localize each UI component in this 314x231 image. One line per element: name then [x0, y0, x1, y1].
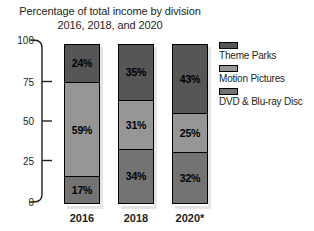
bar-2018-segment-theme-parks: 35% [118, 44, 154, 101]
y-tick-label-25: 25 [6, 155, 34, 166]
bar-2020: 43% 25% 32% [172, 44, 208, 206]
bar-2020-label-theme-parks: 43% [180, 73, 200, 85]
bar-2018-segment-motion-pictures: 31% [118, 100, 154, 150]
y-tick-label-0: 0 [6, 197, 34, 208]
bar-2016-label-theme-parks: 24% [72, 57, 92, 69]
chart-title: Percentage of total income by division 2… [0, 4, 220, 32]
bar-2018-label-motion-pictures: 31% [126, 119, 146, 131]
legend-item-theme-parks: Theme Parks [219, 42, 314, 61]
y-tick-label-75: 75 [6, 76, 34, 87]
legend-label-theme-parks: Theme Parks [219, 50, 314, 61]
legend-label-motion-pictures: Motion Pictures [219, 73, 314, 84]
bar-2016-segment-theme-parks: 24% [64, 44, 100, 83]
chart-title-line-2: 2016, 2018, and 2020 [0, 18, 220, 32]
bar-2016-label-dvd-bluray: 17% [72, 184, 92, 196]
bar-2018-segment-dvd-bluray: 34% [118, 149, 154, 204]
bar-2016-label-motion-pictures: 59% [72, 124, 92, 136]
y-tick-label-100: 100 [6, 35, 34, 46]
bar-2018-label-theme-parks: 35% [126, 66, 146, 78]
bar-2016: 24% 59% 17% [64, 44, 100, 206]
legend-swatch-theme-parks [219, 42, 238, 49]
chart-title-line-1: Percentage of total income by division [0, 4, 220, 18]
bar-2016-segment-dvd-bluray: 17% [64, 176, 100, 204]
plot-area: 100 75 50 25 0 24% 59% 17% 35% 31% [0, 36, 220, 206]
bar-2020-segment-dvd-bluray: 32% [172, 152, 208, 204]
bar-2020-segment-theme-parks: 43% [172, 44, 208, 114]
legend-item-dvd-bluray: DVD & Blu-ray Disc [219, 88, 314, 107]
bar-2018: 35% 31% 34% [118, 44, 154, 206]
y-tick-label-50: 50 [6, 116, 34, 127]
chart-legend: Theme Parks Motion Pictures DVD & Blu-ra… [219, 42, 314, 111]
legend-swatch-motion-pictures [219, 65, 238, 72]
x-axis-label-2020: 2020* [155, 212, 225, 224]
legend-label-dvd-bluray: DVD & Blu-ray Disc [219, 96, 314, 107]
legend-item-motion-pictures: Motion Pictures [219, 65, 314, 84]
bar-2016-segment-motion-pictures: 59% [64, 82, 100, 178]
stacked-bar-chart: Percentage of total income by division 2… [0, 0, 314, 231]
bar-2020-label-dvd-bluray: 32% [180, 172, 200, 184]
bar-2018-label-dvd-bluray: 34% [126, 170, 146, 182]
bar-2020-label-motion-pictures: 25% [180, 127, 200, 139]
legend-swatch-dvd-bluray [219, 88, 238, 95]
bar-2020-segment-motion-pictures: 25% [172, 113, 208, 154]
